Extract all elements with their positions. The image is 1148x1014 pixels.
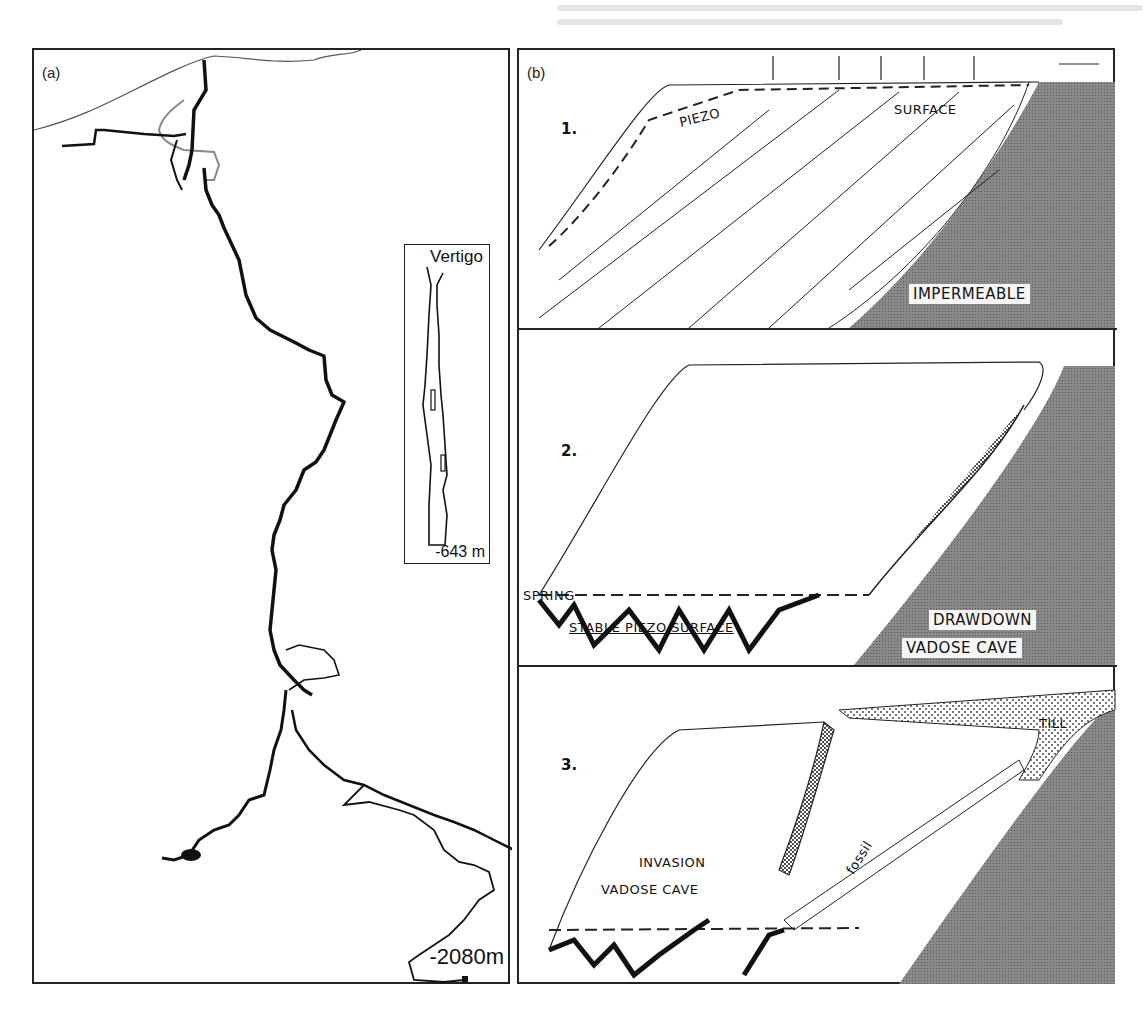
surface-label: SURFACE	[894, 102, 957, 117]
max-depth-label: -2080m	[429, 944, 504, 970]
evolution-diagram	[519, 50, 1117, 986]
stage-2-number: 2.	[561, 442, 577, 460]
invasion-label: INVASION	[639, 855, 706, 870]
impermeable-label: IMPERMEABLE	[909, 284, 1030, 304]
vadose-cave-label-3: VADOSE CAVE	[601, 882, 699, 897]
inset-depth-label: -643 m	[435, 543, 485, 561]
stage-3	[549, 690, 1115, 984]
till-label: TILL	[1039, 716, 1067, 731]
stable-piezo-surface-label: STABLE PIEZO SURFACE	[569, 620, 734, 635]
panel-b-cave-evolution: (b)	[517, 48, 1115, 984]
vadose-cave-label-2: VADOSE CAVE	[902, 638, 1022, 658]
panel-a-cave-profile: (a) Vertigo -643 m -2080m	[32, 48, 510, 984]
inset-cave-drawing	[405, 245, 491, 565]
drawdown-label: DRAWDOWN	[929, 610, 1036, 630]
bleed-through-text	[0, 0, 1148, 40]
stage-1-number: 1.	[561, 120, 577, 138]
stage-3-number: 3.	[561, 756, 577, 774]
inset-vertigo: Vertigo -643 m	[404, 244, 490, 564]
spring-label: SPRING	[523, 588, 575, 603]
